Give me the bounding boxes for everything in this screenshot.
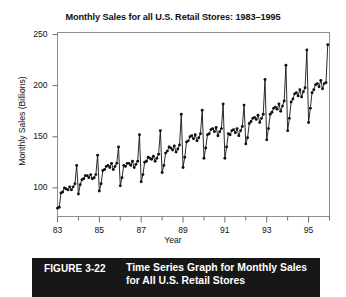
data-point-marker <box>68 185 71 188</box>
data-point-marker <box>201 109 204 112</box>
data-point-marker <box>150 158 153 161</box>
time-series-svg <box>0 0 346 250</box>
data-point-marker <box>145 160 148 163</box>
data-point-marker <box>152 155 155 158</box>
x-tick-label: 89 <box>171 225 195 235</box>
data-point-marker <box>319 79 322 82</box>
data-point-marker <box>119 184 122 187</box>
data-point-marker <box>183 156 186 159</box>
data-point-marker <box>110 162 113 165</box>
data-point-marker <box>218 130 221 133</box>
data-point-marker <box>67 188 70 191</box>
data-point-marker <box>197 136 200 139</box>
data-point-marker <box>194 133 197 136</box>
data-point-marker <box>284 64 287 67</box>
data-point-marker <box>187 139 190 142</box>
y-axis-ticks <box>53 35 58 188</box>
data-point-marker <box>135 163 138 166</box>
data-point-marker <box>258 121 261 124</box>
x-tick-label: 83 <box>46 225 70 235</box>
data-point-marker <box>159 129 162 132</box>
data-point-marker <box>72 185 75 188</box>
data-point-marker <box>176 148 179 151</box>
data-point-marker <box>262 113 265 116</box>
data-point-marker <box>140 180 143 183</box>
data-point-marker <box>117 146 120 149</box>
data-point-marker <box>162 164 165 167</box>
data-point-marker <box>215 126 218 129</box>
x-tick-label: 91 <box>213 225 237 235</box>
data-point-marker <box>96 154 99 157</box>
y-axis-title: Monthly Sales (Billions) <box>17 46 27 196</box>
data-point-marker <box>182 166 185 169</box>
chart-plot-area: Monthly Sales for all U.S. Retail Stores… <box>0 0 346 250</box>
data-point-marker <box>154 160 157 163</box>
data-point-marker <box>229 133 232 136</box>
data-point-marker <box>279 110 282 113</box>
data-point-marker <box>108 166 111 169</box>
data-point-marker <box>115 162 118 165</box>
figure-caption-line-2: for All U.S. Retail Stores <box>126 275 314 288</box>
data-point-marker <box>325 81 328 84</box>
data-point-marker <box>265 138 268 141</box>
data-point-marker <box>225 146 228 149</box>
data-point-marker <box>291 97 294 100</box>
data-point-marker <box>75 164 78 167</box>
data-point-marker <box>220 127 223 130</box>
data-point-marker <box>73 182 76 185</box>
data-point-marker <box>166 150 169 153</box>
data-point-marker <box>58 206 61 209</box>
data-point-marker <box>216 134 219 137</box>
data-point-marker <box>157 153 160 156</box>
data-point-marker <box>309 107 312 110</box>
data-point-marker <box>232 128 235 131</box>
data-point-marker <box>246 136 249 139</box>
figure-number-label: FIGURE 3-22 <box>32 258 126 274</box>
data-point-marker <box>208 132 211 135</box>
data-point-marker <box>94 173 97 176</box>
y-tick-label: 150 <box>14 131 48 141</box>
data-point-marker <box>161 171 164 174</box>
y-tick-label: 200 <box>14 80 48 90</box>
data-point-marker <box>243 104 246 107</box>
data-point-marker <box>316 82 319 85</box>
data-point-marker <box>171 149 174 152</box>
data-point-marker <box>257 114 260 117</box>
data-point-marker <box>211 127 214 130</box>
data-point-marker <box>222 103 225 106</box>
data-point-marker <box>298 88 301 91</box>
data-point-marker <box>61 191 64 194</box>
data-point-marker <box>239 129 242 132</box>
data-point-marker <box>155 157 158 160</box>
data-point-marker <box>277 103 280 106</box>
data-point-marker <box>175 151 178 154</box>
data-point-marker <box>290 101 293 104</box>
data-point-marker <box>244 142 247 145</box>
data-point-marker <box>288 117 291 120</box>
x-axis-title: Year <box>0 235 346 245</box>
data-point-marker <box>70 188 73 191</box>
data-point-marker <box>190 134 193 137</box>
data-point-marker <box>236 127 239 130</box>
data-point-marker <box>124 165 127 168</box>
data-point-marker <box>237 134 240 137</box>
data-point-marker <box>302 90 305 93</box>
data-point-marker <box>267 127 270 130</box>
data-point-marker <box>138 133 141 136</box>
data-point-marker <box>180 113 183 116</box>
data-point-marker <box>321 87 324 90</box>
data-point-marker <box>250 120 253 123</box>
figure-container: Monthly Sales for all U.S. Retail Stores… <box>0 0 346 297</box>
data-point-marker <box>311 91 314 94</box>
data-point-marker <box>100 182 103 185</box>
data-point-marker <box>114 165 117 168</box>
data-point-marker <box>141 173 144 176</box>
data-point-marker <box>271 111 274 114</box>
data-point-marker <box>307 121 310 124</box>
figure-caption-text: Time Series Graph for Monthly Sales for … <box>126 258 320 287</box>
data-point-marker <box>255 118 258 121</box>
data-point-marker <box>178 143 181 146</box>
data-point-marker <box>326 43 329 46</box>
data-point-marker <box>286 129 289 132</box>
data-point-marker <box>312 88 315 91</box>
